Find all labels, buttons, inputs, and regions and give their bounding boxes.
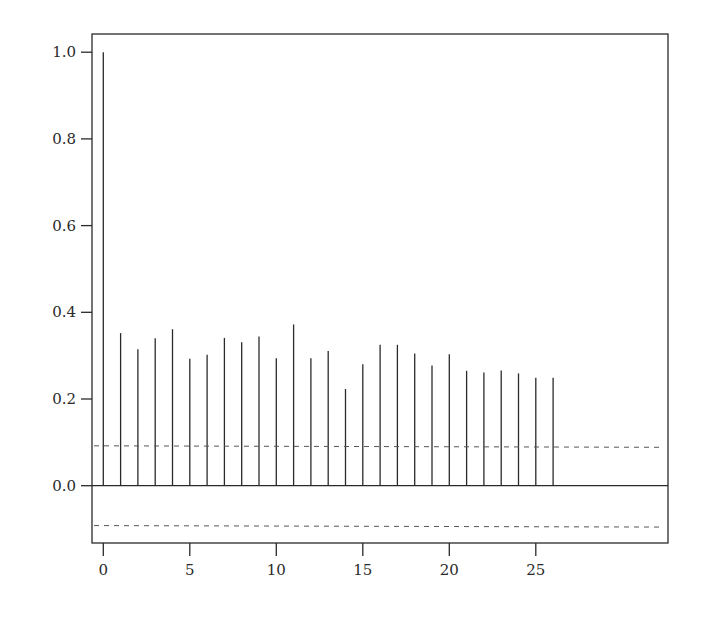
y-tick-label: 0.0 bbox=[52, 477, 76, 495]
lower-confidence-line bbox=[94, 526, 664, 528]
y-tick-label: 1.0 bbox=[52, 43, 76, 61]
x-tick-label: 15 bbox=[353, 561, 372, 579]
y-tick-label: 0.4 bbox=[52, 303, 76, 321]
acf-chart: 0.00.20.40.60.81.0 0510152025 bbox=[0, 0, 703, 627]
x-tick-label: 5 bbox=[185, 561, 195, 579]
y-axis: 0.00.20.40.60.81.0 bbox=[52, 43, 92, 495]
x-tick-label: 0 bbox=[99, 561, 109, 579]
confidence-bands bbox=[94, 446, 664, 527]
y-tick-label: 0.6 bbox=[52, 217, 76, 235]
x-tick-label: 10 bbox=[267, 561, 286, 579]
x-tick-label: 25 bbox=[526, 561, 545, 579]
x-tick-label: 20 bbox=[440, 561, 459, 579]
upper-confidence-line bbox=[94, 446, 664, 448]
y-tick-label: 0.2 bbox=[52, 390, 76, 408]
x-axis: 0510152025 bbox=[99, 543, 546, 579]
acf-stems bbox=[103, 52, 553, 486]
y-tick-label: 0.8 bbox=[52, 130, 76, 148]
